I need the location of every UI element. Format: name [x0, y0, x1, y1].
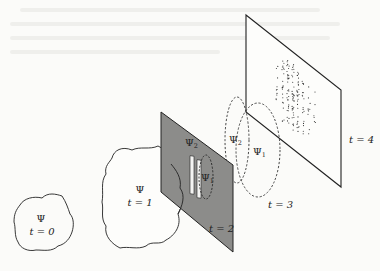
- time-label-t2: t = 2: [209, 223, 234, 234]
- psi-label-t0: Ψ: [37, 213, 46, 224]
- slit-1: [190, 156, 194, 195]
- time-label-t3: t = 3: [268, 199, 293, 210]
- wavefunction-diagram: Ψ t = 0 Ψ t = 1 Ψ2 Ψ1 t = 2 Ψ2 Ψ1 t = 3 …: [0, 0, 380, 271]
- time-label-t4: t = 4: [349, 134, 374, 145]
- psi-label-t1: Ψ: [136, 184, 145, 195]
- psi2-label-t3: Ψ2: [229, 134, 242, 147]
- time-label-t1: t = 1: [127, 197, 152, 208]
- psi1-label-t3: Ψ1: [253, 146, 266, 159]
- screen-plane-t4: [246, 15, 341, 187]
- time-label-t0: t = 0: [29, 226, 55, 237]
